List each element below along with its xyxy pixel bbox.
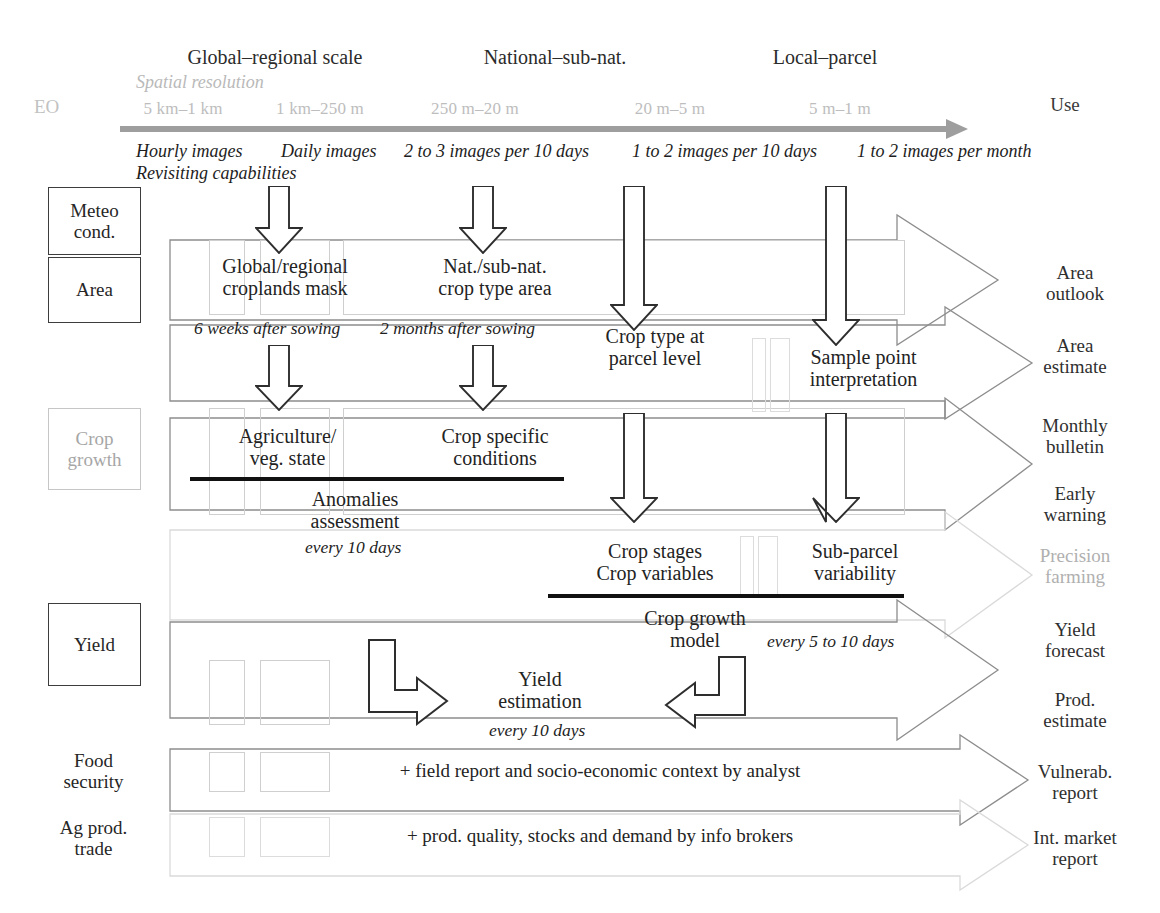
- down-arrow-col4-top: [812, 186, 860, 346]
- output-label-monthly-bulletin: Monthly bulletin: [1000, 410, 1150, 462]
- resolution-tick-0: 5 km–1 km: [118, 98, 248, 120]
- product-crop-growth-model: Crop growth model: [600, 602, 790, 656]
- resolution-tick-3: 20 m–5 m: [600, 98, 740, 120]
- product-yield-estimation: Yield estimation: [455, 663, 625, 717]
- row-label-ag-prod-trade: Ag prod. trade: [43, 812, 144, 864]
- output-label-area-outlook: Area outlook: [1000, 257, 1150, 309]
- grid-cell: [752, 338, 766, 412]
- row-label-meteo-cond: Meteo cond.: [48, 187, 141, 255]
- grid-cell: [260, 752, 330, 792]
- resolution-axis-line: [120, 126, 948, 132]
- row-label-crop-growth: Crop growth: [48, 408, 141, 490]
- resolution-tick-2: 250 m–20 m: [400, 98, 550, 120]
- output-label-early-warning: Early warning: [1000, 478, 1150, 530]
- product-prod-quality: + prod. quality, stocks and demand by in…: [330, 823, 870, 849]
- row-label-yield: Yield: [48, 603, 141, 686]
- timing-every-10-days-anomalies: every 10 days: [305, 537, 401, 558]
- timing-two-months-after-sowing: 2 months after sowing: [380, 318, 535, 339]
- scale-header-national: National–sub-nat.: [430, 44, 680, 70]
- product-agriculture-veg-state: Agriculture/ veg. state: [205, 420, 370, 474]
- grid-cell: [260, 817, 330, 857]
- product-crop-type-parcel: Crop type at parcel level: [560, 320, 750, 374]
- elbow-arrow-left-into-yield: [365, 638, 451, 730]
- output-label-area-estimate: Area estimate: [1000, 330, 1150, 382]
- down-arrow-col1-top: [255, 186, 303, 254]
- use-label: Use: [1000, 92, 1130, 118]
- revisit-frequency-3: 1 to 2 images per 10 days: [632, 141, 817, 162]
- revisit-frequency-0: Hourly images: [136, 141, 243, 162]
- timing-every-5-to-10-days: every 5 to 10 days: [767, 631, 894, 652]
- output-label-precision-farming: Precision farming: [1000, 540, 1150, 592]
- output-label-int-market-report: Int. market report: [1000, 822, 1150, 874]
- grid-cell: [209, 660, 245, 725]
- product-global-croplands-mask: Global/regional croplands mask: [205, 250, 365, 304]
- scale-header-global: Global–regional scale: [150, 44, 400, 70]
- eo-label: EO: [34, 96, 59, 118]
- resolution-axis-arrowhead: [946, 119, 968, 139]
- product-anomalies-assessment: Anomalies assessment: [280, 484, 430, 536]
- down-arrow-col3-top: [610, 186, 658, 331]
- down-arrow-col4-mid: [812, 413, 860, 523]
- revisit-frequency-2: 2 to 3 images per 10 days: [404, 141, 589, 162]
- product-nat-subnat-crop-type-area: Nat./sub-nat. crop type area: [400, 250, 590, 304]
- separator-rule-crop-growth: [190, 477, 564, 481]
- separator-rule-crop-variables: [548, 594, 904, 598]
- revisit-frequency-4: 1 to 2 images per month: [857, 141, 1032, 162]
- scale-header-local: Local–parcel: [700, 44, 950, 70]
- product-field-report: + field report and socio-economic contex…: [330, 758, 870, 784]
- output-label-yield-forecast: Yield forecast: [1000, 614, 1150, 666]
- resolution-tick-1: 1 km–250 m: [250, 98, 390, 120]
- product-crop-specific-conditions: Crop specific conditions: [400, 420, 590, 474]
- down-arrow-col3-mid: [610, 413, 658, 523]
- down-arrow-col1-mid: [255, 345, 303, 411]
- grid-cell: [260, 660, 330, 725]
- grid-cell: [209, 817, 245, 857]
- revisit-frequency-1: Daily images: [281, 141, 376, 162]
- product-sample-point-interpretation: Sample point interpretation: [776, 340, 951, 396]
- product-sub-parcel-variability: Sub-parcel variability: [770, 535, 940, 589]
- diagram-canvas: Global–regional scale National–sub-nat. …: [0, 0, 1160, 913]
- down-arrow-col2-top: [459, 186, 507, 254]
- down-arrow-col2-mid: [459, 345, 507, 411]
- revisiting-capabilities-label: Revisiting capabilities: [136, 163, 296, 184]
- output-label-vulnerab-report: Vulnerab. report: [1000, 756, 1150, 808]
- timing-six-weeks-after-sowing: 6 weeks after sowing: [194, 318, 340, 339]
- grid-cell: [209, 752, 245, 792]
- resolution-tick-4: 5 m–1 m: [775, 98, 905, 120]
- row-label-area: Area: [48, 257, 141, 323]
- spatial-resolution-label: Spatial resolution: [136, 72, 264, 93]
- output-label-prod-estimate: Prod. estimate: [1000, 684, 1150, 736]
- product-crop-stages-variables: Crop stages Crop variables: [560, 535, 750, 589]
- elbow-arrow-right-into-yield: [663, 655, 749, 731]
- row-label-food-security: Food security: [43, 745, 144, 797]
- timing-every-10-days-yield: every 10 days: [489, 720, 585, 741]
